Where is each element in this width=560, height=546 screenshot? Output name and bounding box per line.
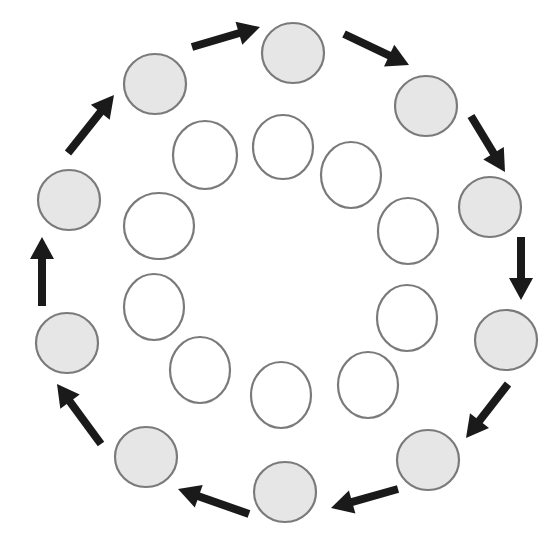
arrow-shaft-7 bbox=[196, 495, 249, 514]
cycle-diagram bbox=[0, 0, 560, 546]
inner-node-4 bbox=[378, 198, 438, 264]
inner-node-5 bbox=[377, 285, 437, 351]
arrow-head-icon-1 bbox=[236, 22, 261, 45]
outer-node-2 bbox=[395, 76, 457, 136]
inner-node-7 bbox=[251, 362, 311, 428]
inner-node-9 bbox=[124, 274, 184, 340]
outer-node-10 bbox=[124, 54, 186, 114]
outer-node-5 bbox=[397, 430, 459, 490]
arrow-shaft-2 bbox=[344, 34, 392, 57]
arrow-shaft-8 bbox=[68, 399, 101, 444]
outer-node-3 bbox=[459, 177, 521, 237]
arrow-head-icon-4 bbox=[509, 278, 533, 300]
cycle-arrows bbox=[30, 22, 533, 514]
arrow-shaft-5 bbox=[477, 384, 508, 423]
inner-node-2 bbox=[253, 115, 313, 179]
outer-node-9 bbox=[38, 170, 100, 230]
arrow-head-icon-9 bbox=[30, 237, 54, 259]
inner-node-ring bbox=[124, 115, 438, 428]
inner-node-6 bbox=[338, 352, 398, 418]
arrow-head-icon-6 bbox=[331, 491, 355, 514]
arrow-shaft-10 bbox=[68, 110, 102, 153]
inner-node-1 bbox=[173, 121, 237, 189]
outer-node-1 bbox=[262, 23, 324, 83]
outer-node-8 bbox=[36, 313, 98, 373]
outer-node-4 bbox=[475, 310, 537, 370]
arrow-shaft-3 bbox=[471, 116, 495, 156]
arrow-shaft-1 bbox=[192, 32, 242, 47]
inner-node-8 bbox=[170, 337, 230, 403]
arrow-shaft-6 bbox=[349, 489, 398, 503]
outer-node-7 bbox=[115, 427, 177, 487]
inner-node-3 bbox=[321, 142, 381, 208]
inner-node-10 bbox=[124, 193, 194, 259]
outer-node-6 bbox=[254, 462, 316, 522]
